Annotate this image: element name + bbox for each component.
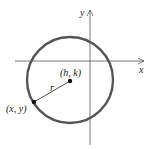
circle-point <box>32 100 36 104</box>
radius-label: r <box>50 82 54 93</box>
center-point <box>68 79 72 83</box>
center-label: (h, k) <box>60 67 82 79</box>
x-axis-label: x <box>138 64 144 75</box>
circle-diagram: y x (h, k) r (x, y) <box>0 0 154 149</box>
point-label: (x, y) <box>6 103 27 115</box>
y-axis-label: y <box>79 7 85 18</box>
